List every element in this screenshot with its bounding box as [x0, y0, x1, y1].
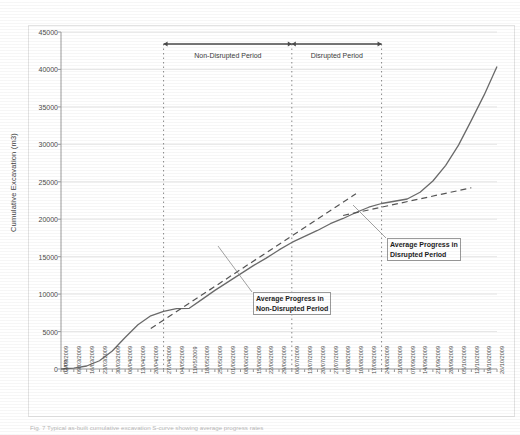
cumulative-excavation-line: [61, 66, 497, 369]
x-tick-label: 11/05/2009: [192, 346, 198, 374]
annotation-line-2: Non-Disrupted Period: [256, 304, 328, 314]
x-tick-label: 05/10/2009: [461, 346, 467, 374]
x-tick-label: 04/05/2009: [179, 346, 185, 374]
x-tick-label: 27/04/2009: [166, 346, 172, 374]
x-tick-label: 25/05/2009: [217, 346, 223, 374]
trend-line-disrupted: [343, 188, 471, 216]
annotation-line-2: Disrupted Period: [390, 250, 458, 260]
annotation-line-1: Average Progress in: [256, 294, 328, 304]
x-tick-label: 01/06/2009: [230, 346, 236, 374]
x-tick-label: 06/07/2009: [294, 346, 300, 374]
x-tick-label: 15/06/2009: [256, 346, 262, 374]
x-tick-label: 08/06/2009: [243, 346, 249, 374]
x-tick-label: 29/06/2009: [281, 346, 287, 374]
x-tick-label: 26/10/2009: [499, 346, 505, 374]
x-tick-label: 06/04/2009: [127, 346, 133, 374]
callout-leader-lines: [218, 205, 386, 292]
x-tick-label: 30/03/2009: [115, 346, 121, 374]
x-tick-label: 24/08/2009: [384, 346, 390, 374]
period-span-arrows: [164, 41, 382, 46]
annotation-average-progress-disrupted: Average Progress in Disrupted Period: [387, 238, 461, 261]
x-tick-label: 02/03/2009: [63, 346, 69, 374]
x-tick-label: 10/08/2009: [358, 346, 364, 374]
x-tick-label: 13/04/2009: [140, 346, 146, 374]
x-tick-label: 16/03/2009: [89, 346, 95, 374]
x-tick-label: 14/09/2009: [422, 346, 428, 374]
period-label-non-disrupted: Non-Disrupted Period: [194, 52, 261, 59]
x-tick-label: 18/05/2009: [204, 346, 210, 374]
x-tick-label: 13/07/2009: [307, 346, 313, 374]
x-tick-label: 20/07/2009: [320, 346, 326, 374]
x-tick-label: 19/10/2009: [486, 346, 492, 374]
annotation-average-progress-non-disrupted: Average Progress in Non-Disrupted Period: [253, 292, 331, 315]
x-tick-label: 31/08/2009: [397, 346, 403, 374]
x-tick-label: 20/04/2009: [153, 346, 159, 374]
period-divider-lines: [164, 44, 382, 369]
period-label-disrupted: Disrupted Period: [311, 52, 363, 59]
x-tick-label: 09/03/2009: [76, 346, 82, 374]
x-tick-label: 28/09/2009: [448, 346, 454, 374]
annotation-line-1: Average Progress in: [390, 240, 458, 250]
figure-container: Cumulative Excavation (m3) 45000 40000 3…: [0, 0, 520, 435]
x-tick-label: 12/10/2009: [474, 346, 480, 374]
x-tick-label: 03/08/2009: [345, 346, 351, 374]
x-tick-label: 23/03/2009: [102, 346, 108, 374]
x-tick-label: 17/08/2009: [371, 346, 377, 374]
x-tick-label: 21/09/2009: [435, 346, 441, 374]
x-tick-label: 22/06/2009: [268, 346, 274, 374]
x-tick-label: 07/09/2009: [410, 346, 416, 374]
figure-caption: Fig. 7 Typical as-built cumulative excav…: [30, 424, 500, 433]
x-tick-label: 27/07/2009: [333, 346, 339, 374]
leader-line-disrupted: [353, 205, 386, 238]
